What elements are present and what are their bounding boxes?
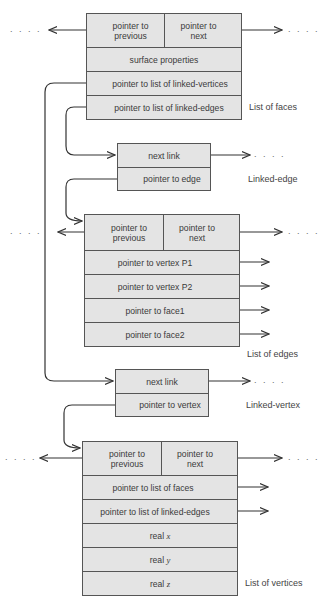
- vertices-y-field: real y: [83, 548, 237, 571]
- edges-prev-field: pointer to previous: [85, 215, 163, 250]
- linked-edge-pointer-field: pointer to edge: [118, 168, 210, 190]
- field-text: previous: [114, 31, 146, 41]
- vertices-faces-field: pointer to list of faces: [83, 476, 237, 499]
- field-text: next: [187, 459, 203, 469]
- field-text: pointer to: [109, 449, 145, 459]
- faces-linked-vertices-field: pointer to list of linked-vertices: [87, 72, 241, 95]
- vertices-z-field: real z: [83, 572, 237, 595]
- linked-vertex-record: next link pointer to vertex: [115, 369, 209, 417]
- linked-edge-next-field: next link: [118, 144, 210, 167]
- field-text: pointer to: [111, 223, 147, 233]
- faces-record: pointer to previous pointer to next surf…: [86, 13, 242, 120]
- linked-edge-title: Linked-edge: [248, 174, 298, 184]
- field-text: previous: [113, 233, 145, 243]
- linked-vertex-next-ellipsis: . . . .: [254, 375, 286, 385]
- linked-vertex-next-field: next link: [116, 370, 208, 393]
- faces-surface-properties: surface properties: [87, 48, 241, 71]
- edges-vertex-p2-field: pointer to vertex P2: [85, 275, 239, 298]
- vertices-record: pointer to previous pointer to next poin…: [82, 441, 238, 596]
- field-text: previous: [111, 459, 143, 469]
- vertices-next-ellipsis: . . . .: [288, 452, 320, 462]
- edges-next-field: pointer to next: [164, 215, 240, 250]
- field-text: next: [189, 233, 205, 243]
- faces-next-ellipsis: . . . .: [288, 24, 320, 34]
- edges-vertex-p1-field: pointer to vertex P1: [85, 251, 239, 274]
- field-text: pointer to: [181, 21, 217, 31]
- field-text: real: [150, 579, 164, 589]
- faces-prev-field: pointer to previous: [87, 14, 164, 48]
- edges-record: pointer to previous pointer to next poin…: [84, 214, 240, 347]
- faces-prev-ellipsis: . . . .: [10, 24, 42, 34]
- variable-text: y: [166, 555, 170, 565]
- field-text: real: [150, 555, 164, 565]
- edges-next-ellipsis: . . . .: [288, 226, 320, 236]
- field-text: pointer to: [113, 21, 149, 31]
- vertices-prev-ellipsis: . . . .: [5, 452, 37, 462]
- edges-title: List of edges: [247, 349, 298, 359]
- vertices-linked-edges-field: pointer to list of linked-edges: [83, 500, 237, 523]
- variable-text: x: [166, 531, 170, 541]
- linked-edge-next-ellipsis: . . . .: [254, 149, 286, 159]
- vertices-title: List of vertices: [245, 578, 303, 588]
- field-text: real: [150, 531, 164, 541]
- field-text: next: [190, 31, 206, 41]
- edges-prev-ellipsis: . . . .: [10, 226, 42, 236]
- linked-vertex-pointer-field: pointer to vertex: [116, 394, 208, 416]
- faces-next-field: pointer to next: [165, 14, 242, 48]
- linked-vertex-title: Linked-vertex: [246, 400, 300, 410]
- field-text: pointer to: [179, 223, 215, 233]
- edges-face1-field: pointer to face1: [85, 299, 239, 322]
- faces-title: List of faces: [249, 102, 297, 112]
- faces-linked-edges-field: pointer to list of linked-edges: [87, 96, 241, 119]
- edges-face2-field: pointer to face2: [85, 323, 239, 346]
- vertices-next-field: pointer to next: [162, 442, 238, 476]
- vertices-x-field: real x: [83, 524, 237, 547]
- field-text: pointer to: [177, 449, 213, 459]
- linked-edge-record: next link pointer to edge: [117, 143, 211, 191]
- vertices-prev-field: pointer to previous: [83, 442, 161, 476]
- variable-text: z: [167, 579, 170, 589]
